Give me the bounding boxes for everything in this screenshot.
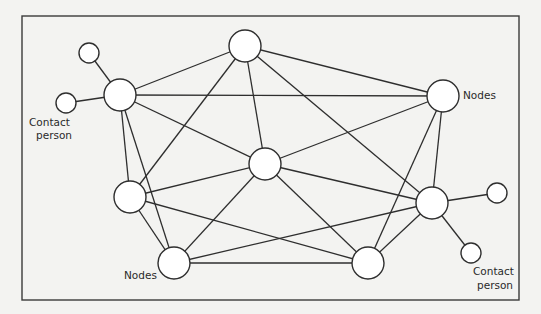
edge-F-H	[174, 203, 432, 263]
contact-person-circle-P3	[487, 183, 507, 203]
node-circle-C	[427, 80, 459, 112]
label-contact-person-left-line1: Contact	[29, 116, 70, 128]
label-contact-person-right-line2: person	[477, 279, 513, 291]
label-contact-person-left-line2: person	[36, 129, 72, 141]
edge-D-E	[130, 164, 265, 197]
edge-B-D	[245, 46, 265, 164]
node-circle-B	[229, 30, 261, 62]
edge-A-C	[120, 95, 443, 96]
edge-A-D	[120, 95, 265, 164]
label-contact-person-right-line1: Contact	[473, 265, 514, 277]
contact-person-circle-P1	[79, 43, 99, 63]
contact-person-circle-P2	[56, 93, 76, 113]
edge-C-G	[368, 96, 443, 263]
nodes-group	[56, 30, 507, 279]
node-circle-E	[114, 181, 146, 213]
label-nodes-right: Nodes	[463, 89, 496, 101]
edge-C-D	[265, 96, 443, 164]
edge-D-H	[265, 164, 432, 203]
edges-group	[66, 46, 497, 263]
node-circle-G	[352, 247, 384, 279]
node-circle-H	[416, 187, 448, 219]
contact-person-circle-P4	[461, 243, 481, 263]
node-circle-D	[249, 148, 281, 180]
label-nodes-bottom: Nodes	[124, 269, 157, 281]
node-circle-A	[104, 79, 136, 111]
network-diagram: Contact person Nodes Nodes Contact perso…	[0, 0, 541, 314]
node-circle-F	[158, 247, 190, 279]
